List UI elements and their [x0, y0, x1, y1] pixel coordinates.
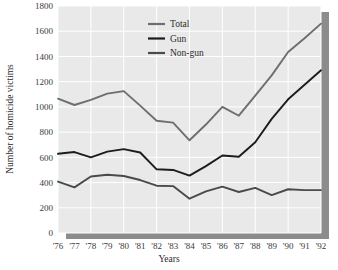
plot-shadow-right: [321, 12, 329, 239]
x-tick-label: '89: [266, 241, 277, 251]
x-tick-label: '79: [102, 241, 113, 251]
y-tick-label: 1200: [35, 77, 54, 87]
x-tick-label: '87: [234, 241, 245, 251]
y-tick-label: 400: [40, 178, 54, 188]
x-tick-label: '88: [250, 241, 261, 251]
y-tick-label: 1400: [35, 52, 54, 62]
x-tick-label: '83: [168, 241, 179, 251]
x-tick-label: '91: [299, 241, 310, 251]
x-axis-title: Years: [158, 254, 180, 264]
y-tick-label: 200: [40, 203, 54, 213]
chart-canvas: 020040060080010001200140016001800 '76'77…: [0, 0, 338, 270]
y-tick-label: 600: [40, 153, 54, 163]
homicide-victims-chart-figure: 020040060080010001200140016001800 '76'77…: [0, 0, 338, 270]
y-tick-label: 0: [49, 228, 54, 238]
x-tick-label: '86: [217, 241, 228, 251]
x-tick-label: '77: [69, 241, 80, 251]
y-tick-label: 1800: [35, 1, 54, 11]
x-tick-label: '76: [53, 241, 64, 251]
x-tick-label: '81: [135, 241, 146, 251]
x-axis-tick-labels: '76'77'78'79'80'81'82'83'84'85'86'87'88'…: [53, 241, 327, 251]
legend-label-total: Total: [170, 19, 190, 29]
y-tick-label: 1000: [35, 102, 54, 112]
x-tick-label: '90: [283, 241, 294, 251]
y-axis-title: Number of homicide victims: [5, 64, 15, 174]
legend-label-non-gun: Non-gun: [170, 48, 204, 58]
y-axis-tick-labels: 020040060080010001200140016001800: [35, 1, 54, 238]
x-tick-label: '85: [201, 241, 212, 251]
x-tick-label: '92: [316, 241, 327, 251]
x-tick-label: '84: [184, 241, 195, 251]
y-tick-label: 1600: [35, 26, 54, 36]
y-tick-label: 800: [40, 127, 54, 137]
x-tick-label: '80: [118, 241, 129, 251]
legend-label-gun: Gun: [170, 34, 187, 44]
x-tick-label: '78: [86, 241, 97, 251]
x-tick-label: '82: [151, 241, 162, 251]
